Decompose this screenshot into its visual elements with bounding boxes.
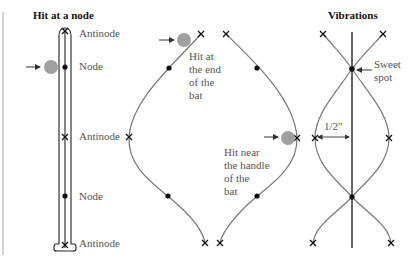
sweet-spot-dot [349, 66, 355, 72]
node-dot [165, 193, 170, 198]
node-dot [62, 64, 67, 69]
label-sweet-spot: Sweet spot [374, 58, 401, 84]
node-dot [349, 194, 354, 199]
label-node-lower: Node [79, 190, 103, 203]
ball [177, 33, 191, 47]
label-hit-near-handle: Hit near the handle of the bat [224, 146, 270, 198]
panel-hit-at-node [26, 28, 76, 251]
ball [44, 60, 58, 74]
antinode-mark [380, 31, 386, 37]
label-node-upper: Node [79, 60, 103, 73]
label-antinode-bottom: Antinode [79, 237, 120, 250]
bat-vibration-diagram [0, 0, 419, 262]
label-half-inch: 1/2" [324, 120, 343, 133]
label-antinode-top: Antinode [79, 27, 120, 40]
node-dot [254, 65, 259, 70]
antinode-mark [223, 31, 229, 37]
antinode-mark [320, 31, 326, 37]
title-vibrations: Vibrations [328, 9, 378, 21]
node-dot [166, 65, 171, 70]
label-antinode-middle: Antinode [79, 130, 120, 143]
node-dot [62, 193, 67, 198]
label-hit-at-end: Hit at the end of the bat [189, 50, 221, 102]
antinode-mark [198, 31, 204, 37]
title-hit-at-node: Hit at a node [33, 9, 94, 21]
ball [281, 131, 295, 145]
